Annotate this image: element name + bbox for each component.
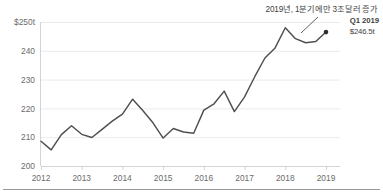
chart-container: 2019년, 1분기에만 3조달러 증가 Q1 2019 $246.5t 200… xyxy=(0,0,383,195)
y-tick-label: 200 xyxy=(21,161,35,171)
x-tick-label: 2014 xyxy=(113,173,132,183)
y-tick-label: 210 xyxy=(21,132,35,142)
x-tick-label: 2016 xyxy=(195,173,214,183)
annotation-leader-line xyxy=(301,17,318,33)
x-tick-label: 2018 xyxy=(276,173,295,183)
gridlines xyxy=(41,23,340,167)
x-axis-tick-labels: 20122013201420152016201720182019 xyxy=(32,173,336,183)
x-tick-label: 2013 xyxy=(72,173,91,183)
line-chart-plot: 200210220230240$250t 2012201320142015201… xyxy=(0,0,383,195)
data-series-line xyxy=(41,28,326,150)
footer-divider xyxy=(3,189,380,190)
endpoint-marker xyxy=(324,30,329,35)
x-tick-label: 2017 xyxy=(235,173,254,183)
x-tick-label: 2012 xyxy=(32,173,51,183)
x-tick-label: 2019 xyxy=(317,173,336,183)
y-tick-label: 240 xyxy=(21,46,35,56)
y-tick-label: 230 xyxy=(21,75,35,85)
y-tick-label: $250t xyxy=(14,17,36,27)
x-tick-label: 2015 xyxy=(154,173,173,183)
y-tick-label: 220 xyxy=(21,104,35,114)
y-axis-tick-labels: 200210220230240$250t xyxy=(14,17,36,171)
